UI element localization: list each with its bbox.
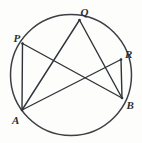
point-label-p: P [14,32,21,44]
point-label-r: R [124,48,132,60]
chord-a-r [22,60,121,111]
vertex-dot-p [21,42,24,45]
vertex-dot-q [78,19,81,22]
point-label-q: Q [81,6,89,18]
point-label-b: B [126,99,134,111]
vertex-dot-a [21,109,24,112]
chord-a-q [22,20,80,110]
vertex-dot-b [121,97,124,100]
geometry-figure: P Q R B A [0,0,142,143]
chord-p-a [22,44,23,111]
geometry-canvas: P Q R B A [0,0,142,143]
point-label-a: A [11,114,19,126]
vertex-dot-r [120,58,123,61]
chords-group [22,20,122,110]
labels-group: P Q R B A [11,6,134,126]
chord-r-b [121,60,122,99]
